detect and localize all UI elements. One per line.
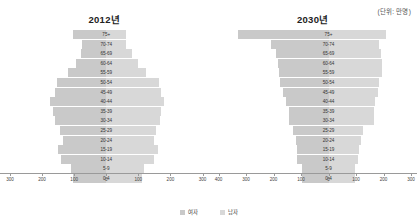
axis-tick xyxy=(246,173,247,176)
bar-male xyxy=(106,116,160,125)
axis-tick-label: 300 xyxy=(6,177,14,182)
bar-female xyxy=(278,59,329,68)
bar-female xyxy=(68,68,107,77)
pyramid-row: 20-24 xyxy=(209,136,417,145)
bar-female xyxy=(289,107,329,116)
bar-female xyxy=(297,155,329,164)
legend-swatch-icon xyxy=(180,210,185,215)
axis-tick-label: 200 xyxy=(167,177,175,182)
axis-tick xyxy=(74,173,75,176)
pyramid-row: 75+ xyxy=(0,30,209,39)
pyramid-row: 55-59 xyxy=(0,68,209,77)
axis-tick xyxy=(356,173,357,176)
bar-female xyxy=(61,155,106,164)
pyramid-row: 60-64 xyxy=(209,59,417,68)
pyramid-row: 40-44 xyxy=(209,97,417,106)
pyramid-row: 60-64 xyxy=(0,59,209,68)
legend-item-female: 여자 xyxy=(180,208,198,216)
bar-female xyxy=(289,116,329,125)
bar-male xyxy=(106,155,153,164)
bar-male xyxy=(329,68,383,77)
axis-tick-label: 300 xyxy=(242,177,250,182)
bar-female xyxy=(55,116,106,125)
axis-tick xyxy=(301,173,302,176)
bar-rows-2012: 75+70-7465-6960-6455-5950-5445-4940-4435… xyxy=(0,30,209,185)
axis-tick-label: 100 xyxy=(297,177,305,182)
pyramid-row: 25-29 xyxy=(209,126,417,135)
bar-male xyxy=(329,126,363,135)
bar-male xyxy=(329,40,380,49)
axis-tick xyxy=(411,173,412,176)
bar-male xyxy=(329,30,387,39)
chart-title-2012: 2012년 xyxy=(0,12,209,26)
bar-rows-2030: 75+70-7465-6960-6455-5950-5445-4940-4435… xyxy=(209,30,417,185)
axis-tick xyxy=(138,173,139,176)
axis-tick xyxy=(170,173,171,176)
plot-area-2030: 75+70-7465-6960-6455-5950-5445-4940-4435… xyxy=(209,30,417,185)
bar-male xyxy=(329,155,359,164)
pyramid-row: 15-19 xyxy=(209,145,417,154)
bar-male xyxy=(106,78,159,87)
bar-male xyxy=(329,78,380,87)
axis-tick-label: 200 xyxy=(38,177,46,182)
pyramid-row: 70-74 xyxy=(0,40,209,49)
chart-panel-2030: 2030년 75+70-7465-6960-6455-5950-5445-494… xyxy=(209,0,417,196)
bar-male xyxy=(106,88,161,97)
pyramid-row: 20-24 xyxy=(0,136,209,145)
bar-female xyxy=(60,126,107,135)
pyramid-charts: 2012년 75+70-7465-6960-6455-5950-5445-494… xyxy=(0,0,417,196)
axis-tick-label: 300 xyxy=(199,177,207,182)
bar-female xyxy=(82,40,106,49)
axis-tick xyxy=(10,173,11,176)
bar-male xyxy=(106,126,156,135)
pyramid-row: 75+ xyxy=(209,30,417,39)
bar-female xyxy=(53,107,106,116)
bar-male xyxy=(106,68,146,77)
bar-male xyxy=(106,136,154,145)
axis-tick xyxy=(384,173,385,176)
axis-tick-label: 0 xyxy=(105,177,108,182)
pyramid-row: 45-49 xyxy=(0,88,209,97)
axis-tick-label: 400 xyxy=(215,177,223,182)
bar-male xyxy=(106,97,164,106)
bar-male xyxy=(106,107,161,116)
axis-tick-label: 100 xyxy=(70,177,78,182)
bar-female xyxy=(81,49,107,58)
bar-female xyxy=(276,49,328,58)
pyramid-row: 15-19 xyxy=(0,145,209,154)
axis-tick-label: 100 xyxy=(134,177,142,182)
bar-female xyxy=(76,59,106,68)
bar-male xyxy=(329,116,374,125)
axis-tick-label: 200 xyxy=(380,177,388,182)
bar-female xyxy=(73,30,107,39)
bar-male xyxy=(329,88,379,97)
pyramid-row: 55-59 xyxy=(209,68,417,77)
bar-male xyxy=(329,59,383,68)
legend-item-male: 남자 xyxy=(220,208,238,216)
bar-male xyxy=(329,107,374,116)
pyramid-row: 50-54 xyxy=(209,78,417,87)
bar-female xyxy=(286,97,329,106)
axis-tick-label: 0 xyxy=(327,177,330,182)
pyramid-row: 70-74 xyxy=(209,40,417,49)
pyramid-row: 35-39 xyxy=(209,107,417,116)
bar-female xyxy=(302,174,328,183)
axis-tick xyxy=(219,173,220,176)
pyramid-row: 10-14 xyxy=(0,155,209,164)
bar-female xyxy=(55,88,106,97)
axis-tick xyxy=(42,173,43,176)
axis-tick xyxy=(329,173,330,176)
pyramid-row: 65-69 xyxy=(0,49,209,58)
pyramid-row: 30-34 xyxy=(209,116,417,125)
bar-female xyxy=(58,145,106,154)
axis-tick xyxy=(274,173,275,176)
legend: 여자남자 xyxy=(0,208,417,216)
bar-female xyxy=(63,136,106,145)
bar-male xyxy=(106,30,125,39)
legend-label: 남자 xyxy=(228,208,238,216)
axis-tick xyxy=(203,173,204,176)
bar-female xyxy=(238,30,329,39)
pyramid-row: 40-44 xyxy=(0,97,209,106)
pyramid-row: 45-49 xyxy=(209,88,417,97)
bar-male xyxy=(106,59,138,68)
